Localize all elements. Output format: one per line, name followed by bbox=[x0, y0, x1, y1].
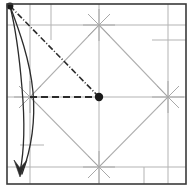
geometric-construction-diagram bbox=[0, 0, 193, 192]
center-dot bbox=[95, 93, 103, 101]
diagram-canvas bbox=[0, 0, 193, 192]
